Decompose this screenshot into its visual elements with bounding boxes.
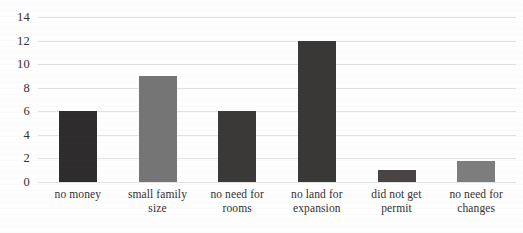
bar-chart-figure: 14 12 10 8 6 4 2 0 no money small family… [0,0,523,233]
y-tick-label: 0 [24,176,30,189]
x-label-did-not-get-permit: did not get permit [359,188,435,215]
x-axis: no money small family size no need for r… [38,188,516,233]
y-axis: 14 12 10 8 6 4 2 0 [0,0,38,195]
y-tick-label: 4 [24,129,30,142]
bar-did-not-get-permit [378,170,416,182]
x-label-small-family-size: small family size [120,188,196,215]
bar-no-need-for-rooms [218,111,256,182]
bar-no-money [59,111,97,182]
y-tick-label: 12 [17,34,30,47]
y-tick-label: 8 [24,81,30,94]
y-tick-label: 14 [17,11,30,24]
x-label-no-need-for-changes: no need forchanges [438,188,514,215]
y-tick-label: 2 [24,152,30,165]
y-tick-label: 10 [17,58,30,71]
x-label-no-money: no money [40,188,116,202]
y-tick-label: 6 [24,105,30,118]
bar-small-family-size [139,76,177,182]
bars-layer [38,10,516,185]
bar-no-land-for-expansion [298,41,336,182]
x-label-no-need-for-rooms: no need for rooms [199,188,275,215]
bar-no-need-for-changes [457,161,495,182]
x-label-no-land-for-expansion: no land forexpansion [279,188,355,215]
